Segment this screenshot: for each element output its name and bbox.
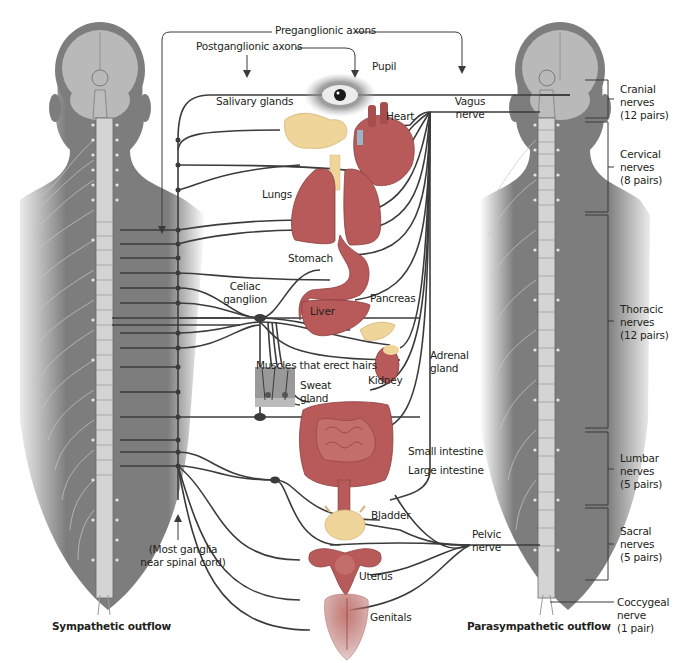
bladder-organ xyxy=(325,506,365,540)
adrenal-gland-label: Adrenal gland xyxy=(430,349,469,375)
sweat-gland-label: Sweat gland xyxy=(300,379,331,405)
cranial-nerves-label: Cranial nerves (12 pairs) xyxy=(620,83,669,122)
coccygeal-nerve-label: Coccygeal nerve (1 pair) xyxy=(617,596,669,635)
vagus-nerve-label: Vagus nerve xyxy=(450,95,490,121)
uterus-label: Uterus xyxy=(359,570,393,583)
preganglionic-axons-label: Preganglionic axons xyxy=(275,24,376,37)
diagram-artwork xyxy=(0,0,694,663)
lumbar-nerves-label: Lumbar nerves (5 pairs) xyxy=(620,452,662,491)
pupil-label: Pupil xyxy=(372,60,396,73)
celiac-ganglion-label: Celiac ganglion xyxy=(215,280,275,306)
large-intestine-label: Large intestine xyxy=(408,464,484,477)
salivary-glands-label: Salivary glands xyxy=(216,95,293,108)
sacral-nerves-label: Sacral nerves (5 pairs) xyxy=(620,525,662,564)
postganglionic-axons-label: Postganglionic axons xyxy=(196,40,302,53)
small-intestine-label: Small intestine xyxy=(408,445,483,458)
autonomic-nervous-system-diagram: Preganglionic axons Postganglionic axons… xyxy=(0,0,694,663)
liver-label: Liver xyxy=(310,305,335,318)
stomach-label: Stomach xyxy=(288,252,333,265)
pancreas-organ xyxy=(360,322,395,340)
bladder-label: Bladder xyxy=(371,509,410,522)
pelvic-nerve-label: Pelvic nerve xyxy=(472,528,501,554)
cervical-nerves-label: Cervical nerves (8 pairs) xyxy=(620,148,662,187)
muscles-erect-hairs-label: Muscles that erect hairs xyxy=(256,359,377,372)
sympathetic-outflow-caption: Sympathetic outflow xyxy=(52,620,171,633)
thoracic-nerves-label: Thoracic nerves (12 pairs) xyxy=(620,303,669,342)
intestines-organ xyxy=(299,402,392,515)
pancreas-label: Pancreas xyxy=(370,292,416,305)
genitals-organ xyxy=(325,594,369,660)
heart-label: Heart xyxy=(386,110,414,123)
kidney-label: Kidney xyxy=(368,374,403,387)
lungs-label: Lungs xyxy=(262,188,292,201)
most-ganglia-label: (Most ganglia near spinal cord) xyxy=(128,543,238,569)
eye-organ xyxy=(304,73,376,117)
salivary-gland-organ xyxy=(285,113,347,148)
genitals-label: Genitals xyxy=(370,611,412,624)
skin-hair-sweat-organ xyxy=(255,367,295,407)
parasympathetic-outflow-caption: Parasympathetic outflow xyxy=(467,620,611,633)
